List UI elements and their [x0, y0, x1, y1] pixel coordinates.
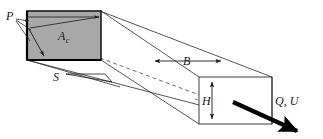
label-depth: H	[201, 94, 212, 108]
label-area-base: A	[57, 29, 66, 43]
prism-slope-line	[27, 60, 120, 87]
slope-marker	[66, 74, 112, 82]
label-area-subscript: c	[66, 36, 70, 45]
label-width: B	[183, 54, 191, 68]
open-channel-figure: P Ac S B H Q, U	[0, 0, 323, 139]
label-discharge-velocity: Q, U	[275, 94, 300, 108]
label-perimeter: P	[5, 9, 14, 23]
channel-diagram-canvas: P Ac S B H Q, U	[0, 0, 323, 139]
label-slope: S	[53, 70, 59, 84]
